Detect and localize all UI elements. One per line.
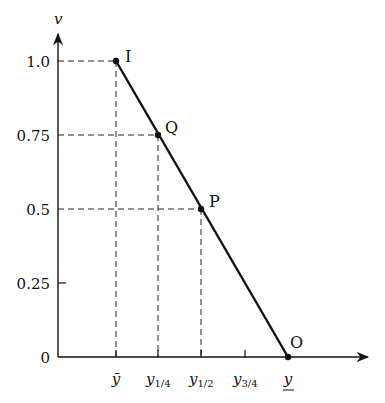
point-p	[198, 206, 204, 212]
point-o	[285, 354, 291, 360]
x-tick-y34: y3/4	[232, 370, 258, 389]
guide-lines	[58, 61, 201, 357]
tick-marks	[58, 283, 245, 357]
y-tick-0: 0	[40, 349, 50, 367]
y-tick-labels: 1.0 0.75 0.5 0.25 0	[17, 53, 50, 367]
y-tick-05: 0.5	[26, 201, 50, 219]
point-label-i: I	[125, 47, 131, 66]
y-tick-025: 0.25	[17, 275, 50, 293]
x-tick-labels: ȳ y1/4 y1/2 y3/4 y	[111, 370, 294, 390]
point-i	[113, 58, 119, 64]
point-label-o: O	[290, 333, 303, 352]
y-tick-1: 1.0	[26, 53, 50, 71]
x-tick-yunder: y	[283, 370, 293, 388]
y-tick-075: 0.75	[17, 127, 50, 145]
x-tick-ybar: ȳ	[111, 370, 121, 388]
y-axis-label: v	[54, 10, 63, 28]
point-q	[155, 132, 161, 138]
point-label-p: P	[209, 192, 220, 211]
x-tick-y12: y1/2	[188, 370, 214, 389]
x-tick-y14: y1/4	[145, 370, 171, 389]
point-label-q: Q	[165, 118, 178, 137]
diagram-canvas: I Q P O v 1.0 0.75 0.5 0.25 0 ȳ y1/4 y1/…	[0, 0, 385, 403]
